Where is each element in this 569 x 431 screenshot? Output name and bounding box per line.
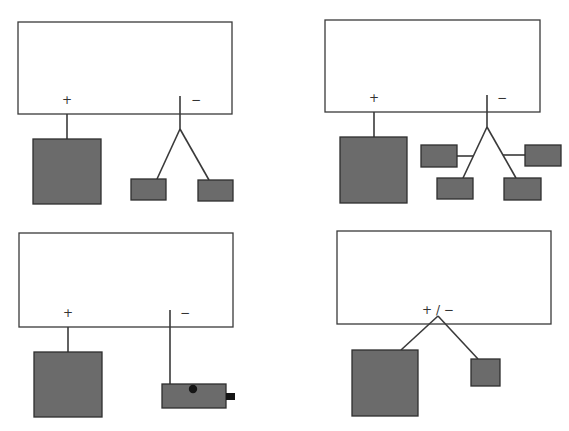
panel-bottom-left: + − <box>19 233 235 417</box>
plus-label: + <box>63 306 73 320</box>
plus-label: + <box>62 93 72 107</box>
minus-label: − <box>191 93 201 107</box>
large-block <box>34 352 102 417</box>
connector-tab-icon <box>226 393 235 400</box>
bottom-block-right <box>504 178 541 200</box>
dot-icon <box>189 385 197 393</box>
minus-label: − <box>497 91 507 105</box>
minus-label: − <box>180 306 190 320</box>
panel-top-right: + − <box>325 20 561 203</box>
branch-right-wire <box>180 129 209 180</box>
large-block <box>340 137 407 203</box>
branch-left-wire <box>463 127 487 178</box>
diagram-canvas: + − + − + − <box>0 0 569 431</box>
branch-right-wire <box>487 127 516 178</box>
large-block <box>33 139 101 204</box>
plus-label: + <box>369 91 379 105</box>
side-block-right <box>525 145 561 166</box>
side-block-left <box>421 145 457 167</box>
source-box <box>19 233 233 327</box>
combined-terminal-label: + / − <box>422 303 454 317</box>
large-block <box>352 350 418 416</box>
small-block-left <box>131 179 166 200</box>
small-block <box>471 359 500 386</box>
bottom-block-left <box>437 178 473 199</box>
branch-left-wire <box>157 129 180 179</box>
panel-bottom-right: + / − <box>337 231 551 416</box>
source-box <box>325 20 540 112</box>
small-block-right <box>198 180 233 201</box>
panel-top-left: + − <box>18 22 233 204</box>
